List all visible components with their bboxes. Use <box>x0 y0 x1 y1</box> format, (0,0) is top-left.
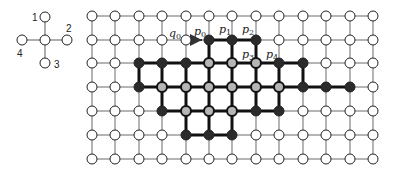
black-node <box>345 82 355 92</box>
white-node <box>110 11 120 21</box>
white-node <box>298 11 308 21</box>
white-node <box>134 35 144 45</box>
gray-node <box>204 58 214 68</box>
white-node <box>321 130 331 140</box>
black-node <box>181 130 191 140</box>
white-node <box>345 130 355 140</box>
white-node <box>298 35 308 45</box>
gray-node <box>204 82 214 92</box>
white-node <box>87 11 97 21</box>
white-node <box>368 82 378 92</box>
black-node <box>298 58 308 68</box>
white-node <box>345 106 355 116</box>
label-p3: p3 <box>242 48 254 62</box>
legend-label-3: 3 <box>54 59 60 70</box>
white-node <box>87 154 97 164</box>
white-node <box>227 154 237 164</box>
black-node <box>274 106 284 116</box>
white-node <box>110 106 120 116</box>
black-node <box>134 82 144 92</box>
white-node <box>110 58 120 68</box>
white-node <box>251 154 261 164</box>
white-node <box>157 130 167 140</box>
label-p4: p4 <box>266 48 278 62</box>
gray-node <box>227 82 237 92</box>
white-node <box>345 58 355 68</box>
white-node <box>251 130 261 140</box>
white-node <box>157 11 167 21</box>
white-node <box>134 106 144 116</box>
white-node <box>274 35 284 45</box>
white-node <box>181 154 191 164</box>
gray-node <box>181 82 191 92</box>
white-node <box>345 11 355 21</box>
white-node <box>274 130 284 140</box>
white-node <box>321 58 331 68</box>
gray-node <box>227 106 237 116</box>
white-node <box>298 154 308 164</box>
black-node <box>181 58 191 68</box>
legend-label-4: 4 <box>17 48 23 59</box>
white-node <box>321 106 331 116</box>
label-q0: q0 <box>169 27 181 41</box>
white-node <box>368 130 378 140</box>
white-node <box>110 35 120 45</box>
white-node <box>134 154 144 164</box>
white-node <box>251 11 261 21</box>
white-node <box>87 35 97 45</box>
white-node <box>298 130 308 140</box>
black-node <box>134 58 144 68</box>
white-node <box>274 154 284 164</box>
white-node <box>87 130 97 140</box>
white-node <box>368 11 378 21</box>
label-p0: p0 <box>194 25 206 39</box>
legend-node-2 <box>62 35 72 45</box>
white-node <box>134 130 144 140</box>
white-node <box>345 35 355 45</box>
legend-label-1: 1 <box>32 12 38 23</box>
white-node <box>181 11 191 21</box>
white-node <box>181 35 191 45</box>
white-node <box>368 106 378 116</box>
gray-node <box>274 82 284 92</box>
legend-label-2: 2 <box>66 23 72 34</box>
black-node <box>251 106 261 116</box>
grid-diagram: 1234 q0p0p1p2p3p4 <box>0 0 394 177</box>
white-node <box>321 154 331 164</box>
gray-node <box>227 58 237 68</box>
legend-node-1 <box>40 12 50 22</box>
white-node <box>110 82 120 92</box>
white-node <box>345 154 355 164</box>
white-node <box>204 11 214 21</box>
white-node <box>110 130 120 140</box>
gray-node <box>251 82 261 92</box>
label-p2: p2 <box>242 23 254 37</box>
black-node <box>157 58 167 68</box>
gray-node <box>181 106 191 116</box>
white-node <box>87 58 97 68</box>
white-node <box>368 35 378 45</box>
white-node <box>227 11 237 21</box>
label-p1: p1 <box>219 23 231 37</box>
legend-node-4 <box>17 35 27 45</box>
white-node <box>274 11 284 21</box>
white-node <box>368 58 378 68</box>
white-node <box>87 82 97 92</box>
white-node <box>298 106 308 116</box>
legend-node-3 <box>40 58 50 68</box>
white-node <box>204 154 214 164</box>
white-node <box>368 154 378 164</box>
black-node <box>227 130 237 140</box>
black-node <box>204 130 214 140</box>
black-node <box>298 82 308 92</box>
white-node <box>321 11 331 21</box>
white-node <box>134 11 144 21</box>
gray-node <box>204 106 214 116</box>
white-node <box>87 106 97 116</box>
neighbor-legend: 1234 <box>17 12 72 70</box>
white-node <box>157 154 167 164</box>
black-node <box>157 106 167 116</box>
white-node <box>157 35 167 45</box>
black-node <box>321 82 331 92</box>
gray-node <box>157 82 167 92</box>
